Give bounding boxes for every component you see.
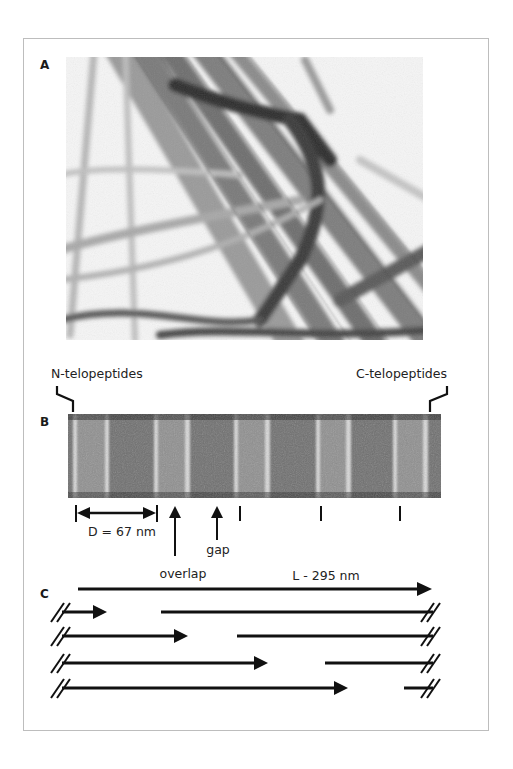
molecule-length-label: L - 295 nm (292, 568, 359, 583)
stagger-row-1 (51, 603, 440, 622)
gap-arrow (211, 506, 223, 540)
panel-label-c: C (40, 587, 49, 601)
d-period-marker (76, 505, 157, 522)
molecule-length-arrow (78, 582, 432, 596)
d-period-label: D = 67 nm (88, 524, 156, 539)
stagger-row-4 (51, 679, 440, 698)
n-telopeptides-label: N-telopeptides (51, 366, 143, 381)
c-telopeptides-label: C-telopeptides (356, 366, 447, 381)
fibril-band-image (68, 414, 441, 498)
panel-label-b: B (40, 415, 49, 429)
figure-canvas: A (0, 0, 513, 769)
panel-label-a: A (40, 58, 50, 72)
overlap-label: overlap (160, 566, 207, 581)
n-terminal-bracket (57, 386, 73, 412)
overlap-arrow (169, 506, 181, 556)
stagger-row-2 (51, 627, 440, 646)
micrograph-a (60, 40, 440, 360)
c-terminal-bracket (430, 386, 447, 412)
stagger-row-3 (51, 654, 440, 673)
gap-label: gap (206, 542, 230, 557)
period-ticks (240, 506, 400, 521)
